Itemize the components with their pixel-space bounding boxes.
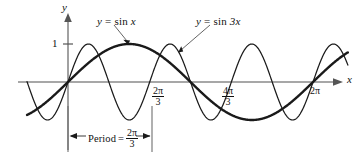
period-annotation: Period = 2π 3 [88,128,138,150]
fraction-denominator: 3 [152,97,164,107]
annotation-argument: x [131,15,136,27]
fraction-four-pi-over-three: 4π 3 [222,86,234,108]
trig-graph-figure: y x 1 2π 3 4π 3 2π y = sin x y = sin 3x … [0,0,362,160]
leader-arrowhead-sin-3x [178,46,183,52]
annotation-function: sin [213,15,226,27]
period-equals: = [118,134,124,145]
y-tick-label-one: 1 [52,38,58,49]
leader-line-sin-3x [181,25,210,50]
y-axis-arrowhead [64,13,72,22]
annotation-argument: 3x [230,15,241,27]
period-arrowhead-left [70,133,78,139]
fraction-denominator: 3 [126,139,138,149]
period-arrowhead-right [143,133,151,139]
fraction-period: 2π 3 [126,128,138,150]
period-word: Period [88,134,116,145]
curve-annotation-sin-x: y = sin x [97,16,136,27]
annotation-function: sin [114,15,127,27]
x-tick-label-two-pi: 2π [310,86,320,96]
x-axis-label: x [347,74,352,85]
x-tick-label-four-pi-over-three: 4π 3 [222,86,234,108]
leader-line-sin-x [114,25,127,41]
plot-canvas [0,0,362,160]
x-axis-arrowhead [333,78,343,86]
leader-sin-x [114,25,130,45]
fraction-denominator: 3 [222,97,234,107]
leader-sin-3x [178,25,210,53]
x-tick-label-two-pi-over-three: 2π 3 [152,86,164,108]
curve-annotation-sin-3x: y = sin 3x [196,16,241,27]
y-axis-label: y [62,2,67,13]
fraction-two-pi-over-three: 2π 3 [152,86,164,108]
